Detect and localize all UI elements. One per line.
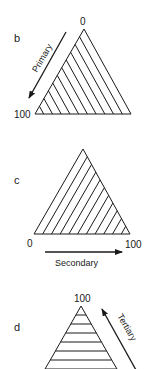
hatch-line [86, 195, 108, 234]
panel-c: c 0 100 Secondary [14, 149, 142, 268]
hatch-line [57, 75, 78, 114]
panel-letter-b: b [14, 32, 20, 44]
secondary-axis-label: Secondary [55, 258, 99, 268]
hatch-line [95, 203, 113, 234]
secondary-tick-0: 0 [27, 238, 33, 249]
hatch-line [52, 165, 92, 235]
hatch-line [78, 188, 105, 234]
hatch-line [43, 157, 88, 234]
panel-letter-d: d [14, 321, 20, 333]
hatch-line [44, 99, 53, 115]
panel-letter-c: c [14, 174, 20, 186]
triangle-c [34, 149, 130, 234]
hatch-line [121, 226, 125, 234]
panel-b: b 0 100 Primary [14, 16, 131, 120]
hatch-line [69, 180, 100, 234]
hatch-lines-c [43, 157, 126, 234]
hatch-line [40, 106, 44, 114]
hatch-line [71, 52, 105, 114]
hatch-line [60, 172, 96, 234]
hatch-lines-d [45, 315, 117, 369]
hatch-line [104, 211, 117, 234]
secondary-tick-100: 100 [125, 239, 142, 250]
tertiary-tick-100: 100 [74, 293, 91, 304]
hatch-line [53, 83, 70, 114]
triangle-b [35, 29, 131, 114]
hatch-line [80, 37, 123, 114]
primary-tick-100: 100 [14, 109, 31, 120]
hatch-line [75, 45, 113, 115]
hatch-line [66, 60, 96, 114]
primary-tick-0: 0 [80, 16, 86, 27]
ternary-axes-diagram: b 0 100 Primary c 0 100 Secondary d 100 [0, 0, 156, 369]
hatch-line [113, 219, 122, 235]
panel-d: d 100 Tertiary [14, 293, 139, 369]
